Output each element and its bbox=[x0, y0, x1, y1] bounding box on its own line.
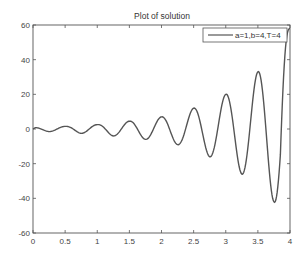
x-tick-label: 2.5 bbox=[188, 237, 200, 246]
legend: a=1,b=4,T=4 bbox=[203, 28, 287, 42]
x-tick-label: 0 bbox=[31, 237, 36, 246]
y-tick-label: -40 bbox=[18, 194, 30, 203]
plot-area bbox=[33, 25, 290, 233]
y-tick-label: 40 bbox=[21, 56, 30, 65]
y-tick-label: 20 bbox=[21, 90, 30, 99]
x-tick-label: 3 bbox=[224, 237, 229, 246]
x-tick-label: 2 bbox=[159, 237, 164, 246]
x-tick-label: 1.5 bbox=[124, 237, 136, 246]
line-chart: 00.511.522.533.54-60-40-200204060 Plot o… bbox=[0, 0, 307, 259]
plot-border bbox=[33, 25, 290, 233]
y-tick-label: 60 bbox=[21, 21, 30, 30]
x-tick-label: 3.5 bbox=[252, 237, 264, 246]
y-tick-label: -60 bbox=[18, 229, 30, 238]
x-tick-label: 1 bbox=[95, 237, 100, 246]
legend-label: a=1,b=4,T=4 bbox=[235, 31, 281, 40]
y-tick-label: -20 bbox=[18, 160, 30, 169]
x-tick-label: 0.5 bbox=[60, 237, 72, 246]
y-tick-label: 0 bbox=[26, 125, 31, 134]
chart-title: Plot of solution bbox=[134, 11, 190, 21]
x-tick-label: 4 bbox=[288, 237, 293, 246]
